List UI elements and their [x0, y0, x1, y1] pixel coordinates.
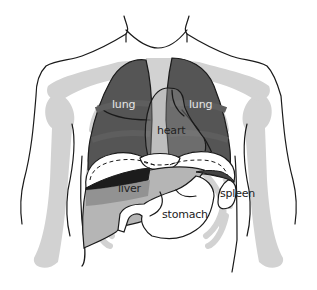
left-humerus [34, 96, 75, 268]
neck-right [185, 16, 189, 42]
label-lung-left: lung [112, 98, 135, 111]
label-spleen: spleen [220, 187, 255, 200]
collar-curve [126, 30, 187, 48]
anatomy-diagram: lung lung heart liver stomach spleen [0, 0, 317, 290]
label-stomach: stomach [162, 208, 208, 221]
neck-left [124, 16, 128, 42]
label-liver: liver [118, 182, 142, 195]
right-humerus [243, 96, 284, 268]
label-lung-right: lung [189, 98, 212, 111]
label-heart: heart [157, 124, 186, 137]
